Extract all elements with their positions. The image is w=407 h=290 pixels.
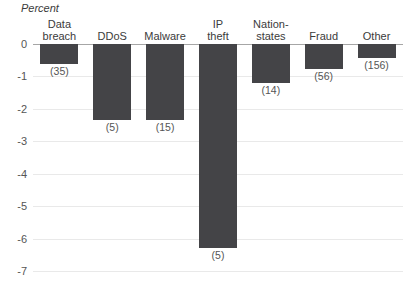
bar[interactable] <box>252 44 290 83</box>
plot-area: 0-1-2-3-4-5-6-7 Databreach(35)DDoS(5)Mal… <box>33 44 403 271</box>
y-axis-tick-label: -4 <box>17 168 27 180</box>
y-axis-tick-label: -1 <box>17 70 27 82</box>
category-label: Databreach <box>43 18 77 42</box>
category-label: DDoS <box>98 30 127 42</box>
y-axis-tick-label: -5 <box>17 200 27 212</box>
bar-group: Nation-states(14) <box>244 44 297 271</box>
bar-group: IPtheft(5) <box>192 44 245 271</box>
y-axis-tick-label: -6 <box>17 233 27 245</box>
bar[interactable] <box>40 44 78 64</box>
y-axis-tick-label: 0 <box>21 38 27 50</box>
gridline: -7 <box>33 271 403 272</box>
category-label: Nation-states <box>253 18 288 42</box>
bar[interactable] <box>305 44 343 69</box>
bar[interactable] <box>146 44 184 120</box>
bar-group: Fraud(56) <box>297 44 350 271</box>
y-axis-tick-label: -3 <box>17 135 27 147</box>
bar-value-label: (5) <box>106 121 119 133</box>
bar[interactable] <box>358 44 396 58</box>
y-axis-title: Percent <box>21 2 59 14</box>
y-axis-tick-label: -2 <box>17 103 27 115</box>
bar-value-label: (35) <box>50 65 69 77</box>
bar-group: Databreach(35) <box>33 44 86 271</box>
category-label: Malware <box>144 30 186 42</box>
bar-series: Databreach(35)DDoS(5)Malware(15)IPtheft(… <box>33 44 403 271</box>
bar-group: DDoS(5) <box>86 44 139 271</box>
bar[interactable] <box>199 44 237 248</box>
bar-value-label: (15) <box>156 121 175 133</box>
bar-value-label: (56) <box>314 70 333 82</box>
bar[interactable] <box>93 44 131 120</box>
bar-value-label: (14) <box>262 84 281 96</box>
bar-group: Malware(15) <box>139 44 192 271</box>
bar-value-label: (5) <box>212 249 225 261</box>
bar-chart: Percent 0-1-2-3-4-5-6-7 Databreach(35)DD… <box>0 0 407 290</box>
bar-group: Other(156) <box>350 44 403 271</box>
category-label: Other <box>363 30 391 42</box>
y-axis-tick-label: -7 <box>17 265 27 277</box>
category-label: Fraud <box>309 30 338 42</box>
category-label: IPtheft <box>207 18 228 42</box>
bar-value-label: (156) <box>364 59 389 71</box>
